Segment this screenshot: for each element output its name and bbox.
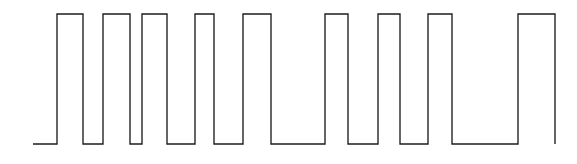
square-wave-trace [33,14,555,144]
waveform-figure [0,0,577,164]
waveform-svg [0,0,577,164]
